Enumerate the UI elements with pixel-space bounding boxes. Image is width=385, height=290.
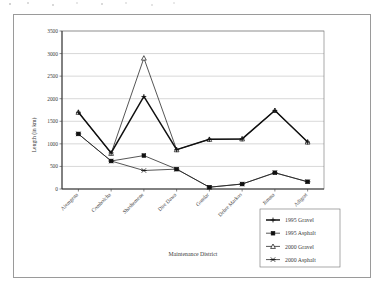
y-tick-label: 3000 xyxy=(47,51,58,57)
legend-item-label: 2000 Gravel xyxy=(285,244,314,250)
legend-item[interactable]: 1995 Gravel xyxy=(266,217,314,223)
y-tick-label: 1000 xyxy=(47,141,58,147)
legend-item-label: 1995 Asphalt xyxy=(285,230,316,236)
x-tick-label: Jimma xyxy=(261,191,276,206)
y-tick-label: 2000 xyxy=(47,96,58,102)
y-axis-ticks: 0500100015002000250030003500 xyxy=(47,28,62,192)
legend-item[interactable]: 2000 Gravel xyxy=(266,244,314,250)
y-tick-label: 3500 xyxy=(47,28,58,34)
x-tick-label: Shashemene xyxy=(121,191,145,215)
y-axis-title-text: Length (in km) xyxy=(31,117,38,152)
x-tick-label: Adigrat xyxy=(292,191,308,207)
y-tick-label: 500 xyxy=(50,163,58,169)
y-tick-label: 1500 xyxy=(47,118,58,124)
y-tick-label: 2500 xyxy=(47,73,58,79)
chart-area: Length (in km) 0500100015002000250030003… xyxy=(14,15,372,279)
y-tick-label: 0 xyxy=(55,186,58,192)
data-series-layer xyxy=(76,56,311,190)
x-tick-label: Gondar xyxy=(194,191,210,207)
line-chart: Length (in km) 0500100015002000250030003… xyxy=(14,15,372,279)
x-tick-label: Alemgena xyxy=(59,191,79,211)
legend-item-label: 2000 Asphalt xyxy=(285,257,316,263)
x-tick-label: Debre Markos xyxy=(217,191,243,217)
x-tick-label: Combolcha xyxy=(90,191,112,213)
series-1995-gravel xyxy=(76,94,310,155)
x-axis-title-text: Maintenance District xyxy=(169,251,218,257)
chart-legend: 1995 Gravel1995 Asphalt2000 Gravel2000 A… xyxy=(260,209,340,267)
series-2000-gravel xyxy=(76,56,310,156)
grid-lines xyxy=(62,31,324,166)
x-tick-label: Dire Dawa xyxy=(156,191,177,212)
y-axis-title: Length (in km) xyxy=(31,117,38,152)
plot-area-border xyxy=(62,31,324,189)
scan-speckle-artifact xyxy=(6,1,186,8)
figure-frame: Length (in km) 0500100015002000250030003… xyxy=(13,14,371,278)
series-1995-asphalt xyxy=(76,132,309,189)
legend-item-label: 1995 Gravel xyxy=(285,217,314,223)
